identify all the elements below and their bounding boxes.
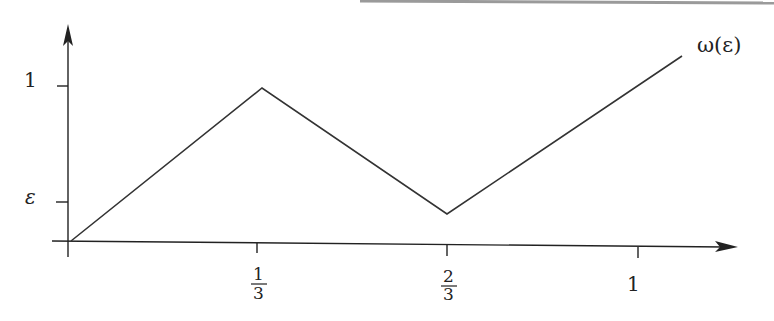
svg-text:3: 3 xyxy=(253,283,264,303)
diagram-figure: 1 ε 1 3 2 3 1 ω(ε) xyxy=(0,0,774,321)
svg-text:3: 3 xyxy=(443,284,454,304)
y-axis: 1 ε xyxy=(24,24,73,257)
svg-text:2: 2 xyxy=(443,266,454,286)
curve-label-omega: ω(ε) xyxy=(697,33,741,57)
x-axis: 1 3 2 3 1 xyxy=(52,241,738,304)
omega-curve xyxy=(71,56,682,241)
y-tick-label-1: 1 xyxy=(24,68,37,92)
x-tick-label-one-third: 1 3 xyxy=(251,264,267,303)
y-tick-label-epsilon: ε xyxy=(25,185,36,209)
svg-text:1: 1 xyxy=(253,264,264,284)
x-tick-label-two-thirds: 2 3 xyxy=(441,266,457,304)
x-tick-label-one: 1 xyxy=(627,272,640,296)
top-border xyxy=(360,1,774,3)
